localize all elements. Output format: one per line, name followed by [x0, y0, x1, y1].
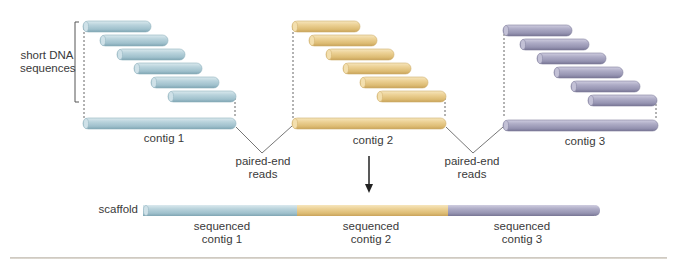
paired-end-connector-2 — [446, 127, 503, 153]
contig-1-label: contig 1 — [134, 132, 194, 145]
paired-end-2-line1: paired-end — [441, 155, 503, 168]
seq-contig1-line1: sequenced — [190, 220, 254, 233]
contig-3-group — [503, 25, 658, 131]
short-dna-sequences-label: short DNA sequences — [20, 49, 74, 75]
sequenced-contig-2-label: sequenced contig 2 — [339, 220, 403, 246]
scaffold-label: scaffold — [90, 203, 138, 216]
sequenced-contig-3-label: sequenced contig 3 — [490, 220, 554, 246]
paired-end-reads-label-1: paired-end reads — [232, 155, 294, 181]
contig-3-tube — [503, 120, 658, 131]
paired-end-1-line2: reads — [232, 168, 294, 181]
contig-2-tube — [292, 118, 446, 129]
footer-divider — [10, 257, 667, 259]
down-arrow-icon — [365, 156, 373, 193]
short-dna-line2: sequences — [20, 62, 74, 75]
seq-contig2-line1: sequenced — [339, 220, 403, 233]
paired-end-connector-1 — [236, 126, 292, 153]
contig-1-group — [83, 21, 236, 129]
sequenced-contig-1-label: sequenced contig 1 — [190, 220, 254, 246]
paired-end-reads-label-2: paired-end reads — [441, 155, 503, 181]
short-dna-line1: short DNA — [20, 49, 74, 62]
short-read-tubes-contig-2 — [292, 21, 446, 102]
short-read-tubes-contig-3 — [503, 25, 657, 106]
seq-contig2-line2: contig 2 — [339, 233, 403, 246]
contig-2-group — [292, 21, 446, 129]
contig-3-label: contig 3 — [555, 135, 615, 148]
scaffold-tube — [143, 205, 600, 216]
contig-2-label: contig 2 — [343, 134, 403, 147]
short-read-tubes-contig-1 — [83, 21, 236, 102]
seq-contig3-line2: contig 3 — [490, 233, 554, 246]
contig-1-tube — [83, 118, 236, 129]
seq-contig3-line1: sequenced — [490, 220, 554, 233]
seq-contig1-line2: contig 1 — [190, 233, 254, 246]
paired-end-2-line2: reads — [441, 168, 503, 181]
paired-end-1-line1: paired-end — [232, 155, 294, 168]
